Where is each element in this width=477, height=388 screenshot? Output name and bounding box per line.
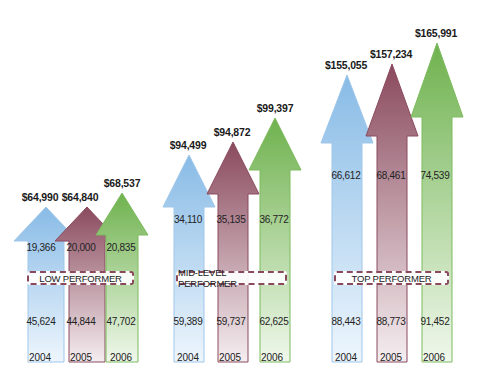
- upper-top-2005: 68,461: [377, 170, 406, 181]
- total-low-2005: $64,840: [62, 191, 99, 203]
- lower-mid-2006: 62,625: [260, 316, 289, 327]
- band-low-performer: LOW PERFORMER: [27, 271, 134, 285]
- upper-top-2006: 74,539: [421, 170, 450, 181]
- total-mid-2004: $94,499: [170, 139, 207, 151]
- lower-mid-2004: 59,389: [174, 316, 203, 327]
- total-low-2006: $68,537: [104, 177, 141, 189]
- year-mid-2005: 2005: [219, 352, 241, 363]
- upper-top-2004: 66,612: [332, 170, 361, 181]
- total-mid-2006: $99,397: [257, 102, 294, 114]
- band-label: LOW PERFORMER: [39, 273, 121, 284]
- upper-low-2004: 19,366: [27, 242, 56, 253]
- year-mid-2004: 2004: [177, 352, 199, 363]
- upper-low-2005: 20,000: [67, 242, 96, 253]
- lower-top-2005: 88,773: [377, 316, 406, 327]
- total-top-2004: $155,055: [325, 59, 367, 71]
- band-label: MID-LEVEL PERFORMER: [178, 267, 285, 289]
- year-top-2004: 2004: [335, 352, 357, 363]
- total-low-2004: $64,990: [22, 191, 59, 203]
- upper-mid-2005: 35,135: [217, 214, 246, 225]
- year-low-2005: 2005: [70, 352, 92, 363]
- lower-low-2006: 47,702: [107, 316, 136, 327]
- band-top-performer: TOP PERFORMER: [334, 271, 449, 285]
- lower-top-2006: 91,452: [421, 316, 450, 327]
- total-top-2006: $165,991: [415, 27, 457, 39]
- total-mid-2005: $94,872: [214, 126, 251, 138]
- lower-low-2004: 45,624: [27, 316, 56, 327]
- year-low-2004: 2004: [29, 352, 51, 363]
- total-top-2005: $157,234: [370, 48, 412, 60]
- performer-arrow-chart: $64,990 $64,840 $68,537 19,366 20,000 20…: [0, 0, 477, 388]
- lower-mid-2005: 59,737: [217, 316, 246, 327]
- lower-low-2005: 44,844: [67, 316, 96, 327]
- upper-low-2006: 20,835: [107, 242, 136, 253]
- year-top-2006: 2006: [423, 352, 445, 363]
- upper-mid-2004: 34,110: [174, 214, 202, 225]
- lower-top-2004: 88,443: [332, 316, 361, 327]
- band-mid-level-performer: MID-LEVEL PERFORMER: [176, 271, 287, 285]
- upper-mid-2006: 36,772: [260, 214, 289, 225]
- year-mid-2006: 2006: [261, 352, 283, 363]
- year-top-2005: 2005: [380, 352, 402, 363]
- band-label: TOP PERFORMER: [352, 273, 432, 284]
- year-low-2006: 2006: [110, 352, 132, 363]
